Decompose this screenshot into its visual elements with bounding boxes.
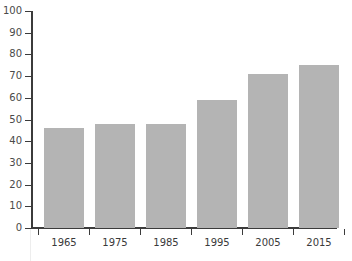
y-axis-tick-label: 70 (0, 70, 22, 81)
y-axis-tick-label: 60 (0, 92, 22, 103)
bar-1965 (44, 128, 84, 228)
y-axis-tick (25, 206, 31, 207)
bar-1975 (95, 124, 135, 228)
y-axis-tick (25, 76, 31, 77)
y-axis-tick-label: 40 (0, 135, 22, 146)
y-axis-tick (25, 54, 31, 55)
bar-2015 (299, 65, 339, 228)
x-axis-tick-label-1995: 1995 (192, 237, 242, 248)
y-axis-tick (25, 11, 31, 12)
y-axis-tick (25, 120, 31, 121)
x-axis-tick (140, 229, 141, 235)
y-axis-tick-label: 100 (0, 5, 22, 16)
y-axis-tick-label: 90 (0, 27, 22, 38)
bar-1995 (197, 100, 237, 228)
x-axis-tick (38, 229, 39, 235)
y-axis-tick (25, 228, 31, 229)
y-axis-tick-label: 10 (0, 200, 22, 211)
chart-screenshot: 0102030405060708090100 19651975198519952… (0, 0, 352, 261)
bar-1985 (146, 124, 186, 228)
y-axis-tick (25, 141, 31, 142)
y-axis-tick-label: 0 (0, 222, 22, 233)
y-axis-tick (25, 98, 31, 99)
x-axis-tick (191, 229, 192, 235)
y-axis-tick (25, 163, 31, 164)
bar-2005 (248, 74, 288, 228)
y-axis-tick-label: 80 (0, 48, 22, 59)
x-axis-tick (89, 229, 90, 235)
left-margin-rule (30, 229, 31, 261)
x-axis-tick-label-2015: 2015 (294, 237, 344, 248)
y-axis-tick (25, 33, 31, 34)
x-axis-tick-label-2005: 2005 (243, 237, 293, 248)
x-axis-tick-label-1965: 1965 (39, 237, 89, 248)
bar-chart-plot-area: 0102030405060708090100 19651975198519952… (0, 0, 352, 261)
x-axis-tick (344, 229, 345, 235)
y-axis-tick-label: 30 (0, 157, 22, 168)
x-axis-tick-label-1985: 1985 (141, 237, 191, 248)
y-axis-tick (25, 185, 31, 186)
y-axis-tick-label: 50 (0, 114, 22, 125)
x-axis-tick (242, 229, 243, 235)
x-axis-tick-label-1975: 1975 (90, 237, 140, 248)
x-axis-tick (293, 229, 294, 235)
y-axis-tick-label: 20 (0, 179, 22, 190)
y-axis-line (31, 11, 33, 229)
